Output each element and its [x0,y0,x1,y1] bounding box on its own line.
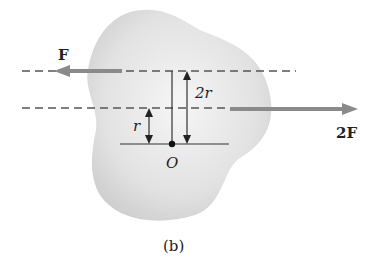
figure-caption: (b) [163,237,184,255]
rigid-body [87,10,271,221]
point-O [169,141,175,147]
dimension-2r-label: 2r [194,84,213,102]
force-F-label: F [58,46,69,64]
dimension-r-label: r [133,117,141,135]
point-O-label: O [166,154,178,172]
force-2F-label: 2F [336,124,357,142]
force-couple-diagram: F 2F r 2r O (b) [0,0,381,272]
